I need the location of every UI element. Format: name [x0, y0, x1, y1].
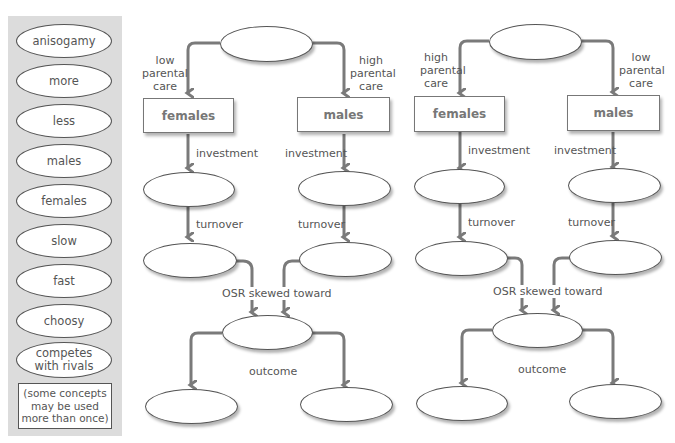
blank-node[interactable] [300, 387, 393, 422]
blank-node[interactable] [298, 171, 391, 206]
blank-node[interactable] [414, 169, 505, 204]
investment-label: investment [468, 144, 530, 157]
osr-label: OSR skewed toward [493, 285, 603, 298]
blank-node[interactable] [492, 313, 583, 348]
turnover-label: turnover [298, 218, 345, 231]
blank-node[interactable] [143, 243, 237, 278]
females-box: females [414, 96, 505, 132]
outcome-label: outcome [249, 365, 297, 378]
outcome-label: outcome [518, 363, 566, 376]
blank-node[interactable] [222, 315, 313, 350]
blank-node[interactable] [569, 240, 662, 275]
males-box: males [567, 95, 660, 131]
care-label-left: high parental care [420, 51, 452, 90]
investment-label: investment [554, 144, 616, 157]
blank-node-top[interactable] [220, 26, 313, 62]
females-box: females [143, 98, 234, 133]
blank-node[interactable] [569, 384, 662, 419]
turnover-label: turnover [568, 216, 615, 229]
care-label-right: high parental care [350, 54, 392, 93]
turnover-label: turnover [196, 218, 243, 231]
turnover-label: turnover [468, 216, 515, 229]
care-label-left: low parental care [140, 54, 190, 93]
osr-label: OSR skewed toward [222, 287, 332, 300]
males-box: males [297, 97, 390, 132]
investment-label: investment [196, 147, 258, 160]
blank-node[interactable] [145, 389, 238, 424]
investment-label: investment [285, 147, 347, 160]
blank-node-top[interactable] [489, 24, 582, 60]
blank-node[interactable] [143, 172, 235, 207]
care-label-right: low parental care [619, 51, 663, 90]
blank-node[interactable] [299, 242, 392, 277]
blank-node[interactable] [416, 386, 508, 421]
blank-node[interactable] [568, 168, 661, 203]
blank-node[interactable] [415, 241, 508, 276]
